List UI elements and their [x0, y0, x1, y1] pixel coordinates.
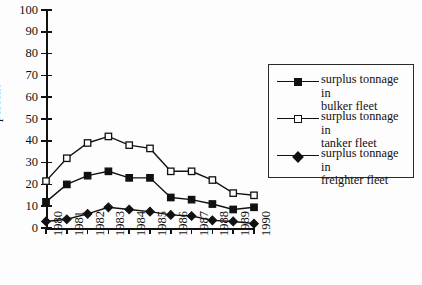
data-point [168, 168, 174, 174]
line-chart: percent 0102030405060708090100 198019811… [0, 0, 422, 285]
data-point [147, 175, 153, 181]
data-point [208, 216, 217, 225]
legend-marker-open-square-icon [275, 112, 321, 126]
series-2 [43, 133, 257, 198]
data-point [84, 140, 90, 146]
data-point [188, 196, 194, 202]
data-point [64, 181, 70, 187]
data-point [105, 133, 111, 139]
legend-item: surplus tonnage in tanker fleet [275, 110, 411, 151]
legend-item: surplus tonnage in freighter fleet [275, 147, 411, 188]
data-point [230, 190, 236, 196]
data-point [43, 178, 49, 184]
data-point [126, 142, 132, 148]
series-3 [42, 203, 259, 228]
data-point [209, 201, 215, 207]
data-point [62, 215, 71, 224]
legend-label: surplus tonnage in tanker fleet [321, 110, 411, 151]
data-point [84, 172, 90, 178]
data-point [42, 217, 51, 226]
legend-marker-filled-square-icon [275, 75, 321, 89]
data-point [104, 203, 113, 212]
legend-item: surplus tonnage in bulker fleet [275, 73, 411, 114]
data-point [230, 206, 236, 212]
legend-label: surplus tonnage in bulker fleet [321, 73, 411, 114]
legend-label: surplus tonnage in freighter fleet [321, 147, 411, 188]
data-point [209, 177, 215, 183]
data-point [187, 212, 196, 221]
data-point [105, 168, 111, 174]
legend-marker-filled-diamond-icon [275, 149, 321, 163]
data-point [64, 155, 70, 161]
data-point [188, 168, 194, 174]
data-point [229, 217, 238, 226]
series-1 [43, 168, 257, 213]
data-point [251, 204, 257, 210]
data-point [250, 219, 259, 228]
data-point [43, 199, 49, 205]
data-point [166, 211, 175, 220]
data-point [146, 207, 155, 216]
data-point [147, 145, 153, 151]
data-point [83, 209, 92, 218]
data-point [126, 175, 132, 181]
data-point [251, 192, 257, 198]
data-point [125, 205, 134, 214]
data-point [168, 194, 174, 200]
legend: surplus tonnage in bulker fleetsurplus t… [268, 64, 414, 178]
